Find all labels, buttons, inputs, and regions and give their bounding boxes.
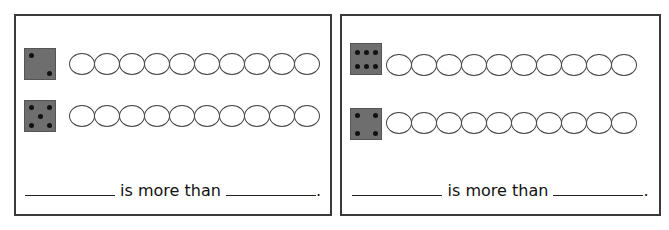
counter-oval[interactable] (194, 105, 220, 127)
die-pip (38, 114, 43, 119)
counter-oval[interactable] (411, 112, 437, 134)
counter-oval[interactable] (536, 54, 562, 76)
counter-oval[interactable] (436, 112, 462, 134)
answer-blank-2[interactable] (226, 181, 316, 196)
die-pip (47, 105, 52, 110)
counter-oval[interactable] (386, 112, 412, 134)
die-pip (373, 64, 378, 69)
counter-oval[interactable] (169, 105, 195, 127)
die-pip (373, 131, 378, 136)
die-pip (47, 123, 52, 128)
die-pip (355, 131, 360, 136)
counter-oval[interactable] (144, 53, 170, 75)
die-face-4 (350, 108, 382, 140)
counter-oval[interactable] (219, 53, 245, 75)
counter-oval[interactable] (94, 105, 120, 127)
ten-frame-row-1 (69, 53, 319, 75)
die-pip (364, 64, 369, 69)
ten-frame-row-2 (386, 112, 636, 134)
ten-frame-row-1 (386, 54, 636, 76)
counter-oval[interactable] (219, 105, 245, 127)
counter-oval[interactable] (119, 53, 145, 75)
counter-oval[interactable] (69, 105, 95, 127)
counter-oval[interactable] (269, 105, 295, 127)
die-pip (47, 71, 52, 76)
counter-oval[interactable] (411, 54, 437, 76)
die-pip (373, 50, 378, 55)
counter-oval[interactable] (169, 53, 195, 75)
counter-oval[interactable] (244, 53, 270, 75)
die-face-6 (350, 43, 382, 75)
answer-blank-2[interactable] (553, 181, 643, 196)
counter-oval[interactable] (511, 112, 537, 134)
counter-oval[interactable] (294, 105, 320, 127)
counter-oval[interactable] (586, 112, 612, 134)
counter-oval[interactable] (294, 53, 320, 75)
counter-oval[interactable] (536, 112, 562, 134)
die-face-5 (24, 100, 56, 132)
die-pip (29, 105, 34, 110)
counter-oval[interactable] (486, 112, 512, 134)
die-pip (355, 64, 360, 69)
counter-oval[interactable] (269, 53, 295, 75)
counter-oval[interactable] (586, 54, 612, 76)
counter-oval[interactable] (561, 54, 587, 76)
ten-frame-row-2 (69, 105, 319, 127)
counter-oval[interactable] (436, 54, 462, 76)
counter-oval[interactable] (69, 53, 95, 75)
sentence-period: . (316, 181, 321, 200)
counter-oval[interactable] (511, 54, 537, 76)
sentence-period: . (643, 181, 648, 200)
sentence-middle-text: is more than (120, 181, 221, 200)
counter-oval[interactable] (386, 54, 412, 76)
counter-oval[interactable] (461, 54, 487, 76)
counter-oval[interactable] (486, 54, 512, 76)
comparison-card-2: is more than . (340, 14, 661, 216)
die-pip (355, 50, 360, 55)
die-pip (364, 50, 369, 55)
answer-blank-1[interactable] (25, 181, 115, 196)
counter-oval[interactable] (119, 105, 145, 127)
counter-oval[interactable] (94, 53, 120, 75)
counter-oval[interactable] (144, 105, 170, 127)
die-face-2 (24, 48, 56, 80)
die-pip (29, 53, 34, 58)
counter-oval[interactable] (561, 112, 587, 134)
counter-oval[interactable] (194, 53, 220, 75)
die-pip (373, 113, 378, 118)
counter-oval[interactable] (611, 112, 637, 134)
comparison-card-1: is more than . (14, 14, 332, 216)
counter-oval[interactable] (244, 105, 270, 127)
die-pip (355, 113, 360, 118)
comparison-sentence: is more than . (342, 181, 659, 200)
answer-blank-1[interactable] (352, 181, 442, 196)
counter-oval[interactable] (461, 112, 487, 134)
comparison-sentence: is more than . (16, 181, 330, 200)
sentence-middle-text: is more than (448, 181, 549, 200)
die-pip (29, 123, 34, 128)
counter-oval[interactable] (611, 54, 637, 76)
